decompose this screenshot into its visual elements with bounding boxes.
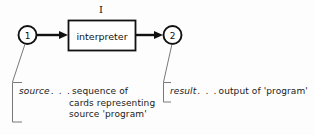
- diagram-top-label: I: [99, 4, 103, 15]
- process-box-label: interpreter: [76, 31, 127, 42]
- result-annotation: result. . .output of 'program': [170, 86, 308, 98]
- source-line-1: sequence of: [72, 86, 128, 96]
- source-annotation: source. . .sequence of cards representin…: [19, 86, 155, 121]
- source-dots: . . .: [50, 86, 72, 96]
- node-circle-2-label: 2: [170, 31, 176, 41]
- result-dots: . . .: [196, 86, 218, 96]
- source-line-2: cards representing: [19, 98, 155, 110]
- node-circle-1-label: 1: [25, 31, 31, 41]
- input-arrow: [37, 31, 68, 39]
- result-term: result: [170, 86, 196, 96]
- result-line-1: output of 'program': [219, 86, 308, 96]
- source-term: source: [19, 86, 50, 96]
- source-line-3: source 'program': [19, 109, 155, 121]
- interpreter-diagram: interpreter I 1 2 source. . .sequence of…: [0, 0, 315, 135]
- output-arrow: [135, 31, 163, 39]
